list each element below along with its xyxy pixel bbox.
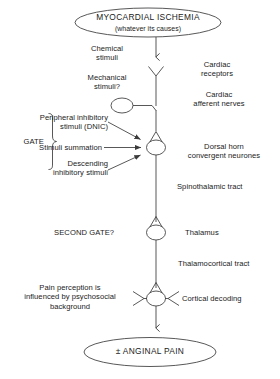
cardiac-receptor-fork	[149, 67, 164, 77]
cortical-neurone-soma	[147, 291, 166, 306]
cortical-decoding-label: Cortical decoding	[182, 294, 278, 303]
descending-inhibitory-arrow	[108, 155, 141, 170]
cortical-decoding-dendrite	[168, 292, 179, 306]
peripheral-inhibitory-stimuli-label: Peripheral inhibitory stimuli (DNIC)	[0, 113, 108, 132]
thalamus-soma	[147, 225, 166, 240]
myocardial-ischemia-subtitle: (whatever its causes)	[58, 24, 238, 33]
peripheral-inhibitory-arrow	[108, 122, 141, 140]
cardiac-afferent-nerves-label: Cardiac afferent nerves	[176, 90, 262, 109]
mechanical-stimuli-ellipse	[111, 98, 133, 113]
stimuli-summation-label: Stimuli summation	[4, 143, 102, 152]
dorsal-horn-soma	[147, 140, 166, 155]
second-gate-label: SECOND GATE?	[54, 228, 144, 237]
psychosocial-input-dendrite	[133, 292, 144, 306]
dorsal-horn-label: Dorsal horn convergent neurones	[172, 142, 276, 161]
spinothalamic-tract-label: Spinothalamic tract	[177, 182, 277, 191]
thalamus-label: Thalamus	[185, 228, 249, 237]
pain-perception-label: Pain perception is influenced by psychos…	[8, 283, 132, 311]
myocardial-ischemia-pain-pathway-diagram: MYOCARDIAL ISCHEMIA (whatever its causes…	[0, 0, 280, 379]
cardiac-receptors-label: Cardiac receptors	[184, 60, 250, 79]
descending-inhibitory-stimuli-label: Descending inhibitory stimuli	[0, 159, 108, 178]
myocardial-ischemia-title: MYOCARDIAL ISCHEMIA	[58, 13, 238, 22]
anginal-pain-label: ± ANGINAL PAIN	[60, 347, 240, 356]
chemical-stimuli-label: Chemical stimuli	[76, 44, 138, 63]
mechanical-stimuli-connector	[133, 106, 156, 111]
thalamocortical-tract-label: Thalamocortical tract	[178, 259, 280, 268]
mechanical-stimuli-label: Mechanical stimuli?	[72, 73, 142, 92]
